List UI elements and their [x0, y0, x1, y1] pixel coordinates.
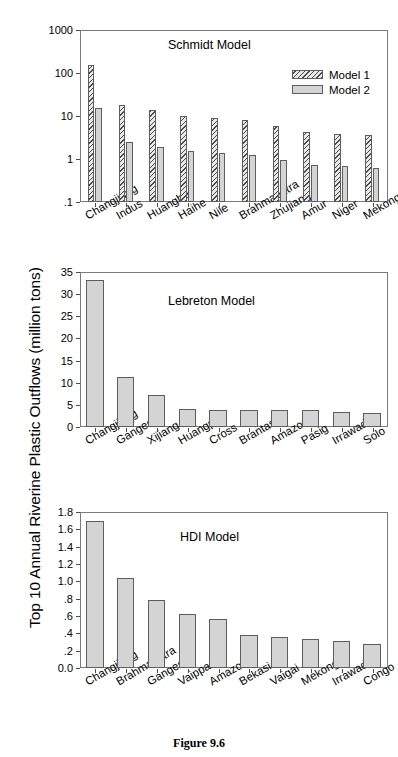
- bar: [240, 635, 257, 668]
- bar: [95, 108, 102, 202]
- figure-caption: Figure 9.6: [0, 736, 398, 751]
- y-axis-tick-mark: [76, 427, 80, 428]
- y-axis-tick-mark: [76, 581, 80, 582]
- bar: [86, 280, 103, 427]
- y-axis-tick-label: 1.0: [58, 575, 73, 587]
- y-axis-tick-mark: [76, 202, 80, 203]
- bar: [179, 614, 196, 668]
- bar: [249, 155, 256, 202]
- y-axis-tick-mark: [76, 599, 80, 600]
- bar: [271, 410, 288, 427]
- y-axis-tick-label: 20: [61, 332, 73, 344]
- y-axis-tick-mark: [76, 361, 80, 362]
- bar: [363, 644, 380, 668]
- y-axis-tick-mark: [76, 668, 80, 669]
- y-axis-tick-label: 30: [61, 288, 73, 300]
- bar: [117, 578, 134, 668]
- y-axis-tick-mark: [76, 633, 80, 634]
- y-axis-tick-mark: [76, 547, 80, 548]
- bar: [373, 168, 380, 202]
- y-axis-tick-label: 35: [61, 266, 73, 278]
- y-axis-tick-label: 1.8: [58, 506, 73, 518]
- bar: [149, 110, 156, 202]
- bar: [179, 409, 196, 427]
- bar: [271, 637, 288, 668]
- y-axis-tick-label: 0.0: [58, 662, 73, 674]
- legend-swatch-icon: [292, 85, 323, 94]
- y-axis-tick-label: 1.6: [58, 523, 73, 535]
- bar: [148, 600, 165, 668]
- bar: [157, 147, 164, 202]
- y-axis-tick-mark: [76, 383, 80, 384]
- bar: [273, 126, 280, 202]
- bar: [117, 377, 134, 427]
- bar: [209, 619, 226, 668]
- legend-item[interactable]: Model 2: [292, 83, 370, 96]
- bar: [333, 641, 350, 668]
- y-axis-tick-label: 1.4: [58, 541, 73, 553]
- y-axis-tick-label: 1.2: [58, 558, 73, 570]
- bar: [302, 639, 319, 668]
- y-axis-tick-label: 1000: [49, 24, 73, 36]
- y-axis-tick-label: 1: [67, 153, 73, 165]
- bar: [342, 166, 349, 202]
- y-axis-tick-label: .6: [64, 610, 73, 622]
- bar: [302, 410, 319, 427]
- y-axis-tick-label: 10: [61, 110, 73, 122]
- bar: [242, 120, 249, 202]
- y-axis-tick-label: .2: [64, 645, 73, 657]
- bar: [126, 142, 133, 202]
- bar: [365, 135, 372, 202]
- bar: [280, 160, 287, 202]
- y-axis-tick-label: .8: [64, 593, 73, 605]
- panel-title: Schmidt Model: [168, 38, 251, 52]
- y-axis-tick-mark: [76, 116, 80, 117]
- y-axis-tick-mark: [76, 272, 80, 273]
- legend: Model 1Model 2: [292, 68, 370, 98]
- shared-y-axis-title: Top 10 Annual Riverine Plastic Outflows …: [26, 267, 44, 628]
- y-axis-tick-mark: [76, 651, 80, 652]
- x-axis-tick-label: Nile: [207, 201, 230, 221]
- bar: [88, 65, 95, 202]
- bar: [219, 153, 226, 202]
- bar: [303, 132, 310, 202]
- bar: [119, 105, 126, 202]
- y-axis-tick-label: 25: [61, 310, 73, 322]
- bar: [240, 410, 257, 427]
- panel-title: Lebreton Model: [168, 294, 255, 308]
- y-axis-tick-label: 15: [61, 355, 73, 367]
- y-axis-tick-mark: [76, 294, 80, 295]
- y-axis-tick-mark: [76, 316, 80, 317]
- shared-y-axis-title-container: Top 10 Annual Riverine Plastic Outflows …: [0, 0, 36, 720]
- panel-title: HDI Model: [180, 530, 239, 544]
- y-axis-tick-label: 100: [55, 67, 73, 79]
- bar: [86, 521, 103, 668]
- y-axis-tick-label: .4: [64, 627, 73, 639]
- bar: [334, 134, 341, 202]
- y-axis-tick-mark: [76, 529, 80, 530]
- y-axis-tick-mark: [76, 338, 80, 339]
- y-axis-tick-mark: [76, 159, 80, 160]
- y-axis-tick-label: 0: [67, 421, 73, 433]
- legend-item[interactable]: Model 1: [292, 68, 370, 81]
- y-axis-tick-mark: [76, 405, 80, 406]
- bar: [148, 395, 165, 427]
- y-axis-tick-label: 5: [67, 399, 73, 411]
- y-axis-tick-mark: [76, 616, 80, 617]
- y-axis-tick-label: 10: [61, 377, 73, 389]
- bar: [211, 118, 218, 202]
- bar: [209, 410, 226, 427]
- y-axis-tick-mark: [76, 73, 80, 74]
- legend-label: Model 2: [329, 84, 370, 96]
- legend-swatch-icon: [292, 70, 323, 79]
- y-axis-tick-label: .1: [64, 196, 73, 208]
- y-axis-tick-mark: [76, 512, 80, 513]
- y-axis-tick-mark: [76, 564, 80, 565]
- bar: [180, 116, 187, 202]
- bar: [333, 412, 350, 428]
- bar: [311, 165, 318, 202]
- figure-9-6: Top 10 Annual Riverine Plastic Outflows …: [0, 0, 398, 757]
- bar: [188, 151, 195, 202]
- y-axis-tick-mark: [76, 30, 80, 31]
- bar: [363, 413, 380, 427]
